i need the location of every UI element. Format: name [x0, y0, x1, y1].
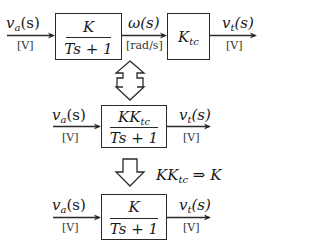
row3-output-unit: [V]	[183, 222, 200, 234]
row3-block-denominator: Ts + 1	[102, 221, 166, 237]
row3-transfer-block: K Ts + 1	[101, 194, 167, 240]
row3-output-label: vt(s)	[179, 197, 211, 213]
row3-block-numerator: K	[102, 199, 166, 215]
